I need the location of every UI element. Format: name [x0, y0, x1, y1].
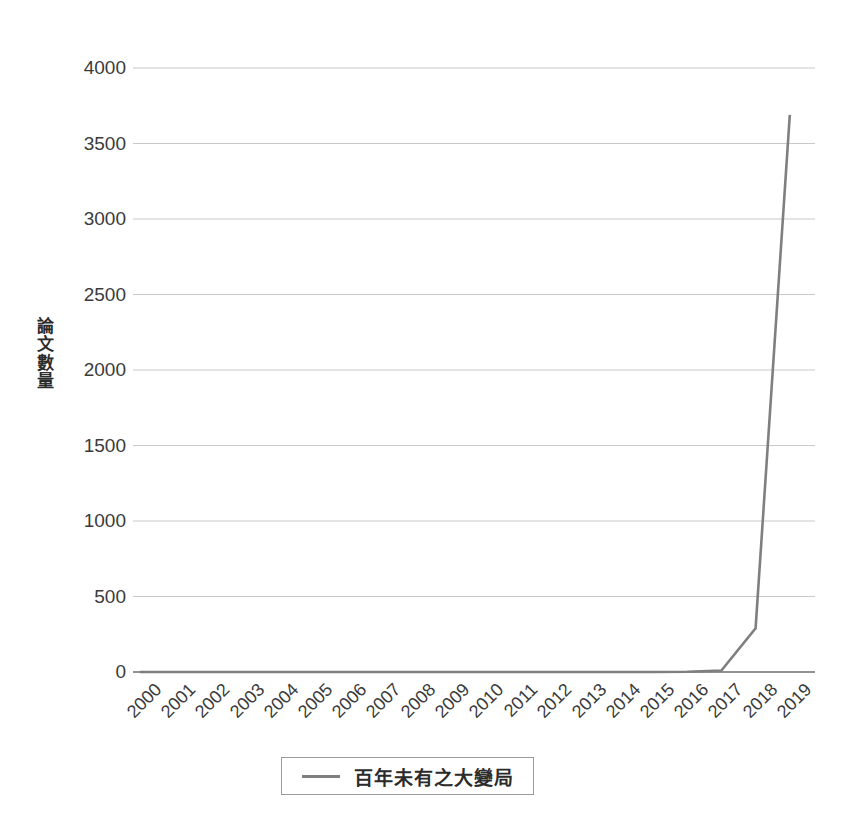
chart-legend: 百年未有之大變局 [281, 757, 534, 795]
x-axis-tick-labels: 2000200120022003200420052006200720082009… [0, 0, 843, 827]
legend-line-swatch [302, 775, 340, 778]
chart-container: 論 文 數 量 05001000150020002500300035004000… [0, 0, 843, 827]
legend-label: 百年未有之大變局 [354, 763, 514, 790]
